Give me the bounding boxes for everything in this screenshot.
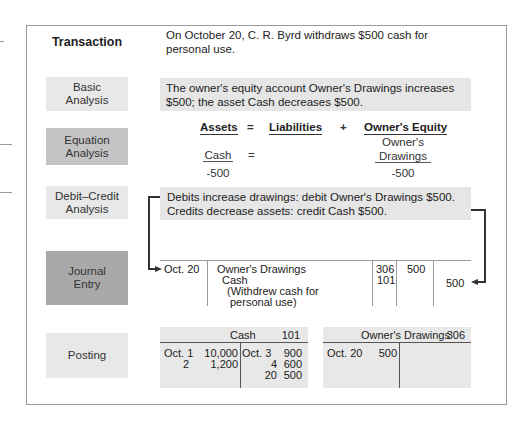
owners-drawings-debit-amount: 500 — [379, 348, 397, 359]
basic-analysis-label: Basic Analysis — [46, 77, 128, 111]
cash-account-title: Cash — [230, 329, 256, 341]
journal-col-divider — [372, 261, 373, 306]
assets-account: Cash — [203, 149, 233, 162]
transaction-label: Transaction — [46, 30, 128, 54]
owners-equity-header: Owner's Equity — [364, 121, 447, 135]
liabilities-header: Liabilities — [269, 121, 322, 135]
connector-right-bottom — [478, 281, 486, 283]
owners-drawings-t-account: Owner's Drawings 306 Oct. 20 500 — [323, 327, 471, 388]
transaction-line-2: personal use. — [166, 42, 466, 56]
basic-analysis-label-line-2: Analysis — [66, 94, 109, 107]
equity-account-line-1: Owner's — [378, 136, 428, 148]
debit-credit-text: Debits increase drawings: debit Owner's … — [160, 187, 471, 220]
basic-analysis-label-line-1: Basic — [73, 81, 101, 94]
journal-entry-label-line-2: Entry — [74, 278, 101, 291]
owners-drawings-title: Owner's Drawings — [361, 329, 450, 341]
debit-credit-label-line-1: Debit–Credit — [55, 190, 119, 203]
debit-credit-label-line-2: Analysis — [66, 203, 109, 216]
equation-analysis-label-line-2: Analysis — [66, 147, 109, 160]
connector-right-vertical — [484, 209, 486, 283]
equation-analysis-label-line-1: Equation — [64, 134, 109, 147]
debit-credit-line-2: Credits decrease assets: credit Cash $50… — [167, 204, 464, 218]
transaction-text: On October 20, C. R. Byrd withdraws $500… — [166, 28, 466, 56]
cash-t-account: Cash 101 Oct. 1 10,000 2 1,200 Oct. 3 90… — [160, 327, 308, 388]
journal-date: Oct. 20 — [164, 264, 199, 276]
owners-drawings-t-account-header: Owner's Drawings 306 — [323, 327, 471, 343]
transaction-line-1: On October 20, C. R. Byrd withdraws $500… — [166, 28, 466, 42]
journal-col-divider — [396, 261, 397, 306]
owners-drawings-t-split — [399, 343, 400, 388]
margin-mark — [0, 192, 12, 193]
equals-sign-2: = — [248, 149, 255, 161]
journal-col-divider — [433, 261, 434, 306]
journal-entry-label-line-1: Journal — [68, 265, 106, 278]
equation-analysis-label: Equation Analysis — [46, 128, 128, 165]
assets-header: Assets — [200, 121, 238, 135]
journal-col-divider — [207, 261, 208, 306]
plus-sign: + — [340, 121, 347, 133]
cash-credit-amount: 500 — [284, 370, 302, 381]
journal-entry-label: Journal Entry — [46, 251, 128, 305]
equity-account-line-2: Drawings — [375, 150, 431, 163]
journal-credit-amount: 500 — [446, 278, 464, 290]
basic-analysis-text: The owner's equity account Owner's Drawi… — [160, 78, 471, 111]
cash-t-account-header: Cash 101 — [160, 327, 308, 343]
margin-mark — [0, 144, 12, 145]
cash-debit-date: 2 — [164, 359, 189, 370]
cash-t-split — [240, 343, 241, 388]
margin-mark — [0, 41, 4, 42]
journal-debit-amount: 500 — [407, 264, 425, 276]
cash-credit-date: 20 — [242, 370, 277, 381]
arrow-left-icon — [471, 279, 478, 285]
assets-change: -500 — [203, 167, 233, 179]
cash-account-number: 101 — [282, 329, 300, 341]
journal-credit-ref: 101 — [377, 275, 395, 287]
equals-sign: = — [247, 121, 254, 133]
journal-explanation-line-2: personal use) — [230, 297, 297, 309]
cash-debit-amount: 1,200 — [210, 359, 238, 370]
owners-drawings-number: 306 — [447, 329, 465, 341]
equity-change: -500 — [378, 167, 428, 179]
owners-drawings-debit-date: Oct. 20 — [327, 348, 362, 359]
connector-left-vertical — [148, 196, 150, 270]
posting-label: Posting — [46, 333, 128, 378]
debit-credit-analysis-label: Debit–Credit Analysis — [46, 186, 128, 219]
basic-analysis-line-1: The owner's equity account Owner's Drawi… — [166, 81, 465, 95]
arrow-right-icon — [155, 266, 162, 272]
debit-credit-line-1: Debits increase drawings: debit Owner's … — [167, 190, 464, 204]
basic-analysis-line-2: $500; the asset Cash decreases $500. — [166, 95, 465, 109]
cash-credit-date: Oct. 3 — [242, 348, 271, 359]
